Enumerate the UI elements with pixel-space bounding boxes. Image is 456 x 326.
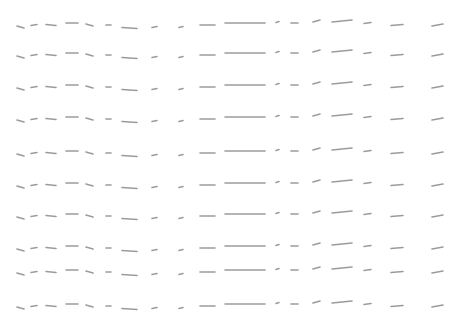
stroke-mark <box>152 250 157 251</box>
stroke-mark <box>364 270 371 271</box>
stroke-mark <box>391 185 403 186</box>
stroke-mark <box>46 272 56 273</box>
stroke-mark <box>276 245 279 246</box>
stroke-mark <box>152 218 157 219</box>
stroke-mark <box>391 25 403 26</box>
stroke-mark <box>364 53 371 54</box>
stroke-mark <box>276 150 279 151</box>
stroke-mark <box>46 153 56 154</box>
stroke-mark <box>364 85 371 86</box>
stroke-mark <box>31 55 37 56</box>
stroke-mark <box>152 89 157 90</box>
stroke-mark <box>276 213 279 214</box>
stroke-mark <box>179 308 183 309</box>
stroke-mark <box>31 119 37 120</box>
stroke-mark <box>391 55 403 56</box>
stroke-pattern-canvas <box>0 0 456 326</box>
stroke-mark <box>46 306 56 307</box>
stroke-mark <box>152 57 157 58</box>
stroke-mark <box>179 121 183 122</box>
stroke-mark <box>179 89 183 90</box>
stroke-mark <box>179 218 183 219</box>
stroke-mark <box>122 275 137 276</box>
stroke-mark <box>391 153 403 154</box>
stroke-mark <box>276 303 279 304</box>
stroke-mark <box>31 248 37 249</box>
stroke-mark <box>276 182 279 183</box>
stroke-mark <box>46 119 56 120</box>
stroke-mark <box>364 151 371 152</box>
stroke-mark <box>152 121 157 122</box>
stroke-mark <box>179 187 183 188</box>
stroke-mark <box>179 250 183 251</box>
stroke-mark <box>31 306 37 307</box>
stroke-mark <box>46 25 56 26</box>
stroke-mark <box>276 52 279 53</box>
stroke-mark <box>152 155 157 156</box>
stroke-mark <box>391 119 403 120</box>
stroke-mark <box>122 28 137 29</box>
stroke-mark <box>31 185 37 186</box>
stroke-mark <box>122 90 137 91</box>
stroke-mark <box>276 269 279 270</box>
stroke-mark <box>391 87 403 88</box>
stroke-mark <box>364 214 371 215</box>
stroke-mark <box>122 156 137 157</box>
stroke-mark <box>179 274 183 275</box>
stroke-mark <box>276 22 279 23</box>
stroke-mark <box>122 251 137 252</box>
stroke-mark <box>31 87 37 88</box>
stroke-mark <box>31 272 37 273</box>
stroke-mark <box>364 246 371 247</box>
stroke-mark <box>46 87 56 88</box>
stroke-mark <box>391 306 403 307</box>
stroke-mark <box>122 58 137 59</box>
stroke-mark <box>179 57 183 58</box>
stroke-mark <box>364 183 371 184</box>
stroke-mark <box>122 122 137 123</box>
stroke-mark <box>122 219 137 220</box>
stroke-mark <box>179 155 183 156</box>
stroke-mark <box>179 27 183 28</box>
stroke-mark <box>391 272 403 273</box>
stroke-mark <box>364 304 371 305</box>
stroke-mark <box>391 216 403 217</box>
stroke-mark <box>46 248 56 249</box>
stroke-mark <box>364 117 371 118</box>
stroke-mark <box>276 84 279 85</box>
stroke-mark <box>276 116 279 117</box>
stroke-mark <box>122 188 137 189</box>
stroke-mark <box>46 55 56 56</box>
stroke-mark <box>152 187 157 188</box>
stroke-mark <box>31 216 37 217</box>
stroke-mark <box>46 216 56 217</box>
stroke-mark <box>391 248 403 249</box>
stroke-mark <box>152 274 157 275</box>
background <box>0 0 456 326</box>
stroke-mark <box>152 308 157 309</box>
stroke-mark <box>364 23 371 24</box>
stroke-mark <box>122 309 137 310</box>
stroke-mark <box>31 153 37 154</box>
stroke-mark <box>152 27 157 28</box>
stroke-mark <box>31 25 37 26</box>
stroke-mark <box>46 185 56 186</box>
